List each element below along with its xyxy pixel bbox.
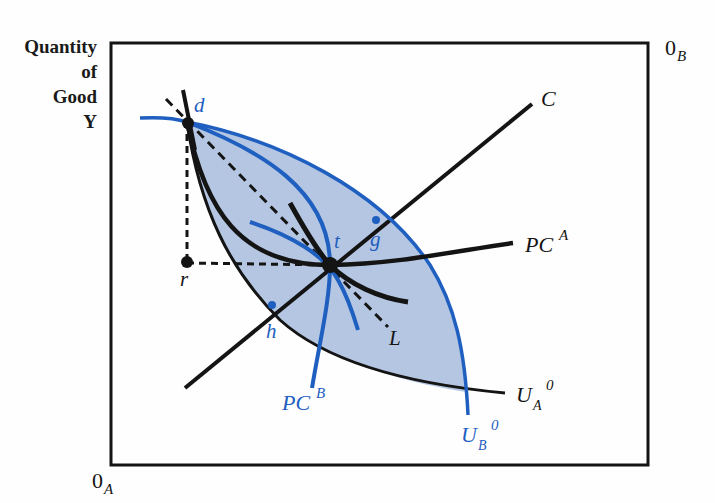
svg-text:PC: PC: [524, 232, 553, 257]
label-ua0: U A 0: [516, 377, 554, 413]
svg-text:0: 0: [491, 417, 499, 433]
svg-text:B: B: [677, 48, 686, 64]
edgeworth-box-diagram: d t g h r C L PC A PC B U A 0 U B 0 0 A …: [0, 0, 715, 503]
origin-b-label: 0 B: [665, 35, 686, 64]
label-h: h: [266, 319, 277, 343]
label-d: d: [194, 93, 205, 117]
svg-text:0: 0: [92, 468, 103, 493]
label-ub0: U B 0: [461, 417, 499, 453]
label-pc-a: PC A: [524, 227, 569, 257]
svg-text:U: U: [461, 422, 479, 447]
svg-text:U: U: [516, 382, 534, 407]
label-contract-curve: C: [541, 86, 556, 111]
svg-text:0: 0: [665, 35, 676, 60]
svg-text:B: B: [316, 385, 325, 401]
svg-text:PC: PC: [281, 390, 310, 415]
point-g: [372, 216, 380, 224]
svg-text:B: B: [478, 438, 487, 453]
svg-text:0: 0: [546, 377, 554, 393]
point-d: [182, 117, 194, 129]
origin-a-label: 0 A: [92, 468, 114, 497]
svg-text:A: A: [532, 398, 542, 413]
point-h: [268, 301, 276, 309]
label-r: r: [180, 267, 189, 291]
label-g: g: [370, 227, 381, 251]
svg-text:A: A: [103, 481, 114, 497]
svg-text:A: A: [558, 227, 569, 243]
label-pc-b: PC B: [281, 385, 325, 415]
label-budget-line: L: [388, 326, 401, 350]
point-t: [322, 257, 338, 273]
